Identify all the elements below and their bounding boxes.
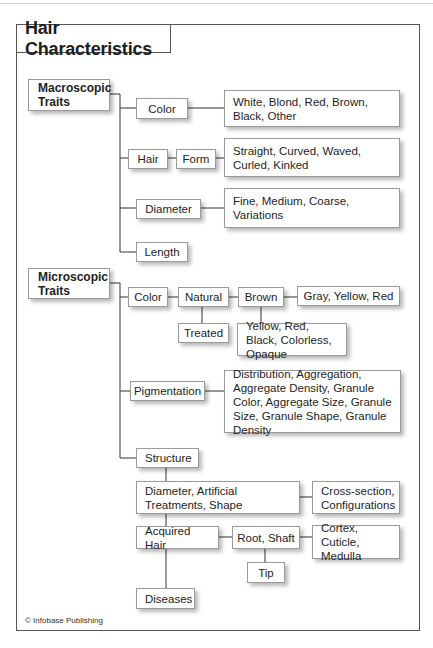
copyright-credit: © Infobase Publishing [25,616,103,625]
node-macro-form-values: Straight, Curved, Waved, Curled, Kinked [224,138,400,177]
node-micro-natural: Natural [178,287,229,307]
node-microscopic-traits: Microscopic Traits [28,268,110,299]
node-macro-diameter: Diameter [136,199,201,219]
node-structure-diameter: Diameter, Artificial Treatments, Shape [136,481,300,514]
node-structure-diameter-values: Cross-section, Configurations [312,481,400,514]
node-macro-length: Length [136,242,188,262]
node-structure-root-shaft: Root, Shaft [232,526,300,549]
node-macro-form: Form [176,149,216,169]
node-macro-color: Color [136,98,188,119]
node-micro-treated: Treated [178,323,229,343]
node-micro-brown-below-values: Yellow, Red, Black, Colorless, Opaque [237,323,347,356]
node-structure-root-shaft-values: Cortex, Cuticle, Medulla [312,525,400,559]
node-structure-acquired-hair: Acquired Hair [136,526,219,549]
node-macroscopic-traits: Macroscopic Traits [28,79,110,111]
node-macro-hair: Hair [128,149,168,169]
node-macro-diameter-values: Fine, Medium, Coarse, Variations [224,188,400,228]
node-micro-brown: Brown [238,287,284,307]
node-micro-structure: Structure [136,448,199,468]
node-structure-tip: Tip [247,562,285,583]
node-micro-brown-side-values: Gray, Yellow, Red [297,286,400,306]
node-micro-pigmentation: Pigmentation [130,381,205,401]
node-micro-color: Color [128,287,168,307]
node-macro-color-values: White, Blond, Red, Brown, Black, Other [224,90,400,127]
node-micro-pigmentation-values: Distribution, Aggregation, Aggregate Den… [224,370,401,433]
node-structure-diseases: Diseases [136,588,195,609]
